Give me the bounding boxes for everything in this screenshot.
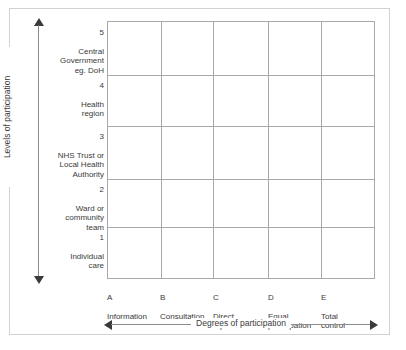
degrees-axis-title-text: Degrees of participation — [191, 318, 291, 328]
level-text-4: Health region — [81, 100, 104, 119]
grid-column-divider-1 — [161, 22, 162, 278]
arrow-vertical-shaft — [38, 25, 39, 277]
level-label-5: 5 Central Government eg. DoH — [40, 18, 104, 76]
level-text-1: Individual care — [70, 252, 104, 271]
grid-column-divider-2 — [213, 22, 214, 278]
level-label-4: 4 Health region — [40, 71, 104, 119]
level-label-1: 1 Individual care — [40, 223, 104, 271]
participation-matrix-figure: 5 Central Government eg. DoH 4 Health re… — [0, 0, 406, 350]
level-number-1: 1 — [100, 233, 104, 242]
levels-axis-arrow-icon — [33, 18, 44, 284]
degrees-axis-title: Degrees of participation — [104, 318, 378, 328]
degree-letter-c: C — [213, 293, 219, 302]
level-number-4: 4 — [100, 81, 104, 90]
arrow-down-head-icon — [34, 276, 44, 284]
grid-column-divider-4 — [321, 22, 322, 278]
level-number-5: 5 — [100, 28, 104, 37]
degree-label-a: A Information — [107, 283, 159, 321]
level-number-3: 3 — [100, 132, 104, 141]
grid-column-divider-3 — [268, 22, 269, 278]
grid-row-divider-5-4 — [108, 75, 374, 76]
grid-row-divider-2-1 — [108, 227, 374, 228]
degree-label-b: B Consultation — [160, 283, 212, 321]
level-label-3: 3 NHS Trust or Local Health Authority — [40, 122, 104, 180]
levels-axis-labels: 5 Central Government eg. DoH 4 Health re… — [40, 21, 104, 279]
grid-row-divider-4-3 — [108, 126, 374, 127]
levels-axis-title: Levels of participation — [0, 47, 14, 187]
degree-letter-e: E — [321, 293, 326, 302]
degrees-axis-arrow-icon: Degrees of participation — [104, 319, 378, 331]
degrees-axis-labels: A Information B Consultation C Direct re… — [107, 283, 387, 317]
level-number-2: 2 — [100, 185, 104, 194]
degree-letter-b: B — [160, 293, 165, 302]
grid-row-divider-3-2 — [108, 179, 374, 180]
degree-letter-a: A — [107, 293, 112, 302]
degree-letter-d: D — [268, 293, 274, 302]
participation-grid — [107, 21, 375, 279]
